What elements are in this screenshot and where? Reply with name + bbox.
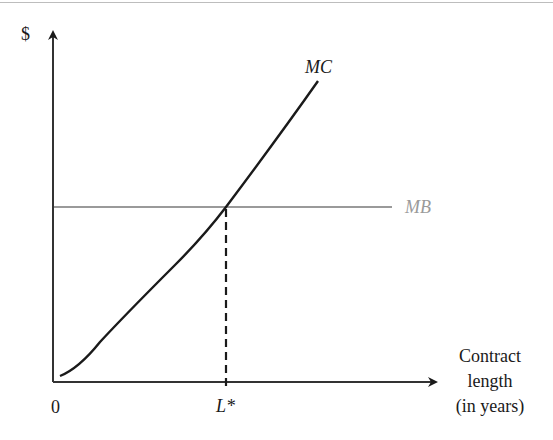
x-axis-label-line-2: length (468, 371, 513, 391)
origin-label: 0 (51, 397, 60, 417)
x-axis-label-line-1: Contract (459, 346, 521, 366)
mb-label: MB (404, 197, 431, 217)
x-axis-label-line-3: (in years) (456, 396, 524, 417)
mc-curve (60, 81, 318, 376)
mc-label: MC (304, 57, 333, 77)
y-axis-label: $ (21, 24, 30, 44)
mc-mb-diagram: $ 0 MC MB L* Contract length (in years) (0, 0, 553, 440)
lstar-label: L* (215, 396, 235, 416)
